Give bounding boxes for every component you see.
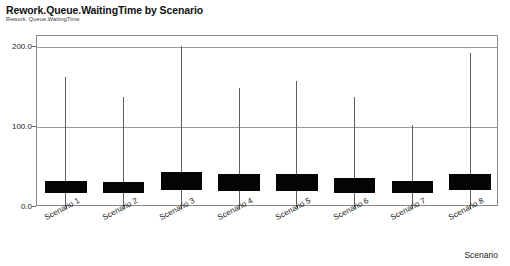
box-plot-item[interactable]	[268, 36, 326, 205]
box-rect[interactable]	[218, 174, 260, 191]
x-axis-title: Scenario	[464, 250, 498, 260]
box-rect[interactable]	[45, 181, 87, 193]
box-plot-item[interactable]	[326, 36, 384, 205]
y-axis-tick-label: 100.0	[12, 122, 32, 131]
box-rect[interactable]	[449, 174, 491, 190]
box-rect[interactable]	[276, 174, 318, 191]
y-axis-tick-label: 200.0	[12, 42, 32, 51]
box-plot-item[interactable]	[153, 36, 211, 205]
box-rect[interactable]	[103, 182, 145, 193]
box-rect[interactable]	[161, 172, 203, 190]
box-rect[interactable]	[334, 178, 376, 192]
box-plot-item[interactable]	[37, 36, 95, 205]
chart-title: Rework.Queue.WaitingTime by Scenario	[6, 4, 203, 16]
boxplot-chart: Rework.Queue.WaitingTime by Scenario Rew…	[0, 0, 510, 266]
y-axis: 200.0100.00.0	[0, 0, 32, 266]
plot-area	[36, 35, 498, 206]
box-plot-item[interactable]	[210, 36, 268, 205]
x-axis-tick-labels: Scenario 1Scenario 2Scenario 3Scenario 4…	[36, 206, 498, 266]
box-plot-item[interactable]	[441, 36, 499, 205]
box-rect[interactable]	[392, 181, 434, 193]
y-axis-tick-label: 0.0	[21, 202, 32, 211]
whisker-line	[412, 125, 413, 207]
box-plot-item[interactable]	[384, 36, 442, 205]
box-plot-item[interactable]	[95, 36, 153, 205]
